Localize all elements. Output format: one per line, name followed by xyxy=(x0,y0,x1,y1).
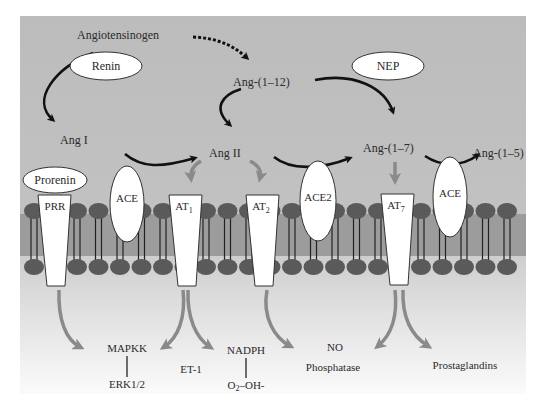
label-ang112: Ang-(1–12) xyxy=(233,75,290,89)
svg-text:Renin: Renin xyxy=(92,59,121,73)
enzyme-renin: Renin xyxy=(70,52,142,80)
enzyme-nep: NEP xyxy=(352,52,424,80)
label-phosphatase: Phosphatase xyxy=(306,361,361,373)
label-erk: ERK1/2 xyxy=(109,378,145,390)
svg-text:ACE2: ACE2 xyxy=(304,191,332,203)
enzyme-prorenin: Prorenin xyxy=(23,167,87,193)
enzyme-ace2: ACE2 xyxy=(300,161,336,241)
label-et1: ET-1 xyxy=(180,363,202,375)
svg-text:NEP: NEP xyxy=(377,59,400,73)
enzyme-ace-right: ACE xyxy=(433,157,467,237)
label-angiotensinogen: Angiotensinogen xyxy=(77,28,159,42)
label-ang17: Ang-(1–7) xyxy=(363,141,414,155)
label-prostaglandins: Prostaglandins xyxy=(433,359,498,371)
svg-text:PRR: PRR xyxy=(45,200,66,212)
label-ang2: Ang II xyxy=(209,146,241,160)
svg-text:Prorenin: Prorenin xyxy=(34,173,75,187)
label-ang1: Ang I xyxy=(60,133,88,147)
label-ang15: Ang-(1–5) xyxy=(473,146,524,160)
label-ros: O2–OH- xyxy=(227,379,264,393)
label-nadph: NADPH xyxy=(227,344,265,356)
ras-diagram: Angiotensinogen Ang-(1–12) Ang I Ang II … xyxy=(0,0,546,411)
label-no: NO xyxy=(327,341,343,353)
svg-text:ACE: ACE xyxy=(439,187,461,199)
enzyme-ace-left: ACE xyxy=(110,166,144,242)
svg-text:ACE: ACE xyxy=(116,192,138,204)
label-mapkk: MAPKK xyxy=(107,342,147,354)
